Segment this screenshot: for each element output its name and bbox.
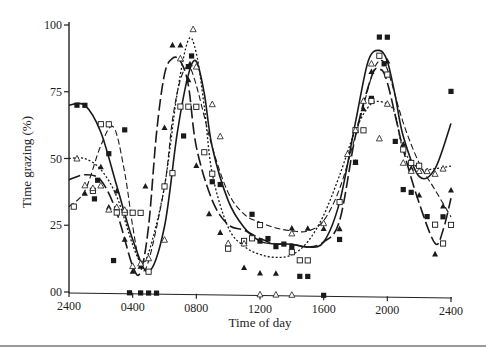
y-tick-label: 00 [50, 285, 62, 299]
open-triangle-marker [130, 263, 136, 269]
open-triangle-marker [257, 291, 263, 297]
open-square-marker [369, 98, 374, 103]
y-tick-label: 100 [44, 18, 62, 32]
open-square-marker [194, 104, 199, 109]
open-square-marker [138, 210, 143, 215]
open-triangle-marker [177, 55, 183, 61]
open-square-marker [440, 241, 445, 246]
open-square-marker [249, 236, 254, 241]
y-tick-label: 25 [50, 218, 62, 232]
open-square-marker [98, 122, 103, 127]
open-square-marker [409, 160, 414, 165]
open-triangle-marker [400, 160, 406, 166]
open-square-marker [257, 222, 262, 227]
x-tick-label: 0800 [184, 301, 208, 315]
open-square-marker [377, 53, 382, 58]
filled-square-marker [210, 179, 215, 184]
filled-triangle-marker [384, 58, 390, 64]
open-triangle-marker [289, 292, 295, 298]
filled-square-marker [189, 53, 194, 58]
open-square-marker [385, 72, 390, 77]
open-square-marker [106, 122, 111, 127]
open-square-marker [146, 269, 151, 274]
open-square-marker [130, 210, 135, 215]
open-square-marker [162, 184, 167, 189]
axes: 00255075100 2400040008001200160020002400 [44, 18, 463, 318]
filled-square-marker [440, 214, 445, 219]
filled-square-marker [218, 182, 223, 187]
filled-square-marker [273, 244, 278, 249]
filled-triangle-marker [448, 187, 454, 193]
filled-square-marker [265, 236, 270, 241]
filled-square-marker [281, 241, 286, 246]
x-tick-label: 2400 [439, 304, 463, 318]
filled-triangle-marker [82, 190, 88, 196]
x-tick-label: 2400 [57, 299, 81, 313]
x-axis-title: Time of day [228, 315, 292, 330]
fitted-curve [69, 38, 451, 263]
filled-square-marker [154, 291, 159, 296]
filled-square-marker [257, 239, 262, 244]
open-square-marker [337, 199, 342, 204]
filled-square-marker [95, 178, 100, 183]
filled-triangle-marker [162, 125, 168, 131]
y-ticks: 00255075100 [44, 18, 69, 299]
open-square-marker [186, 104, 191, 109]
open-triangle-marker [376, 135, 382, 141]
open-square-marker [432, 222, 437, 227]
filled-triangle-marker [217, 229, 223, 235]
filled-triangle-marker [193, 162, 199, 168]
filled-square-marker [122, 127, 127, 132]
filled-square-marker [111, 258, 116, 263]
filled-triangle-marker [122, 236, 128, 242]
filled-triangle-marker [98, 164, 104, 170]
filled-triangle-marker [241, 264, 247, 270]
x-tick-label: 1200 [248, 302, 272, 316]
open-triangle-marker [225, 240, 231, 246]
filled-triangle-marker [257, 270, 263, 276]
filled-square-marker [181, 133, 186, 138]
open-triangle-marker [368, 60, 374, 66]
open-square-marker [361, 128, 366, 133]
open-square-marker [226, 246, 231, 251]
y-axis-title: Time grazing (%) [19, 116, 34, 208]
filled-square-marker [409, 190, 414, 195]
bottom-divider [0, 345, 486, 347]
filled-triangle-marker [142, 183, 148, 189]
open-square-marker [289, 250, 294, 255]
filled-square-marker [249, 212, 254, 217]
open-square-marker [71, 204, 76, 209]
open-square-marker [202, 150, 207, 155]
filled-triangle-marker [273, 270, 279, 276]
filled-triangle-marker [206, 211, 212, 217]
open-triangle-marker [424, 168, 430, 174]
open-square-marker [210, 171, 215, 176]
filled-triangle-marker [305, 225, 311, 231]
filled-square-marker [297, 274, 302, 279]
filled-triangle-marker [169, 42, 175, 48]
y-tick-label: 50 [50, 152, 62, 166]
open-triangle-marker [90, 185, 96, 191]
filled-square-marker [393, 139, 398, 144]
grazing-time-chart: 00255075100 2400040008001200160020002400… [0, 0, 486, 350]
x-tick-label: 1600 [312, 302, 336, 316]
open-triangle-marker [273, 292, 279, 298]
data-points [71, 26, 454, 298]
open-triangle-marker [209, 101, 215, 107]
filled-square-marker [92, 196, 97, 201]
open-triangle-marker [190, 26, 196, 32]
x-tick-label: 0400 [121, 300, 145, 314]
filled-square-marker [377, 34, 382, 39]
open-square-marker [114, 210, 119, 215]
filled-triangle-marker [432, 251, 438, 257]
filled-square-marker [385, 35, 390, 40]
open-square-marker [305, 258, 310, 263]
filled-square-marker [425, 214, 430, 219]
filled-square-marker [127, 290, 132, 295]
filled-square-marker [146, 290, 151, 295]
filled-triangle-marker [177, 42, 183, 48]
filled-square-marker [448, 89, 453, 94]
filled-triangle-marker [321, 225, 327, 231]
x-tick-label: 2000 [375, 303, 399, 317]
open-square-marker [448, 222, 453, 227]
